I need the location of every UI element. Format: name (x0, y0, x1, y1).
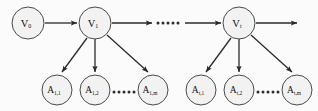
node-v-first[interactable]: V1 (79, 7, 111, 39)
diagram-canvas: V0 V1 Vt A1,1 A1,2 A1,m At (0, 0, 318, 111)
ellipsis-dot (123, 91, 126, 94)
ellipsis-dot (133, 91, 136, 94)
ellipsis-dot (267, 91, 270, 94)
edge-v1-to-a1-m (107, 35, 148, 72)
ellipsis-dot (272, 91, 275, 94)
edge-v1-to-a1-1 (62, 38, 87, 72)
node-at-m[interactable]: At,m (282, 75, 312, 105)
ellipsis-dot (262, 91, 265, 94)
ellipsis-dot (167, 22, 170, 25)
ellipsis-dot (113, 91, 116, 94)
node-at-2[interactable]: At,2 (224, 75, 254, 105)
ellipsis-dot (157, 22, 160, 25)
ellipsis-dot (172, 22, 175, 25)
ellipsis-dot (162, 22, 165, 25)
node-v-start[interactable]: V0 (12, 7, 44, 39)
ellipsis-dot (177, 22, 180, 25)
node-v-t[interactable]: Vt (223, 7, 255, 39)
ellipsis-bottom-right (257, 91, 280, 94)
ellipsis-dot (118, 91, 121, 94)
ellipsis-dot (257, 91, 260, 94)
graph-svg: V0 V1 Vt A1,1 A1,2 A1,m At (0, 0, 318, 111)
edge-vt-to-at-1 (206, 38, 231, 72)
node-a1-2[interactable]: A1,2 (80, 75, 110, 105)
ellipsis-dot (128, 91, 131, 94)
ellipsis-dot (277, 91, 280, 94)
ellipsis-top-row (157, 22, 180, 25)
ellipsis-bottom-left (113, 91, 136, 94)
node-a1-m[interactable]: A1,m (138, 75, 168, 105)
edge-vt-to-at-m (251, 35, 292, 72)
node-at-1[interactable]: At,1 (186, 75, 216, 105)
node-a1-1[interactable]: A1,1 (42, 75, 72, 105)
